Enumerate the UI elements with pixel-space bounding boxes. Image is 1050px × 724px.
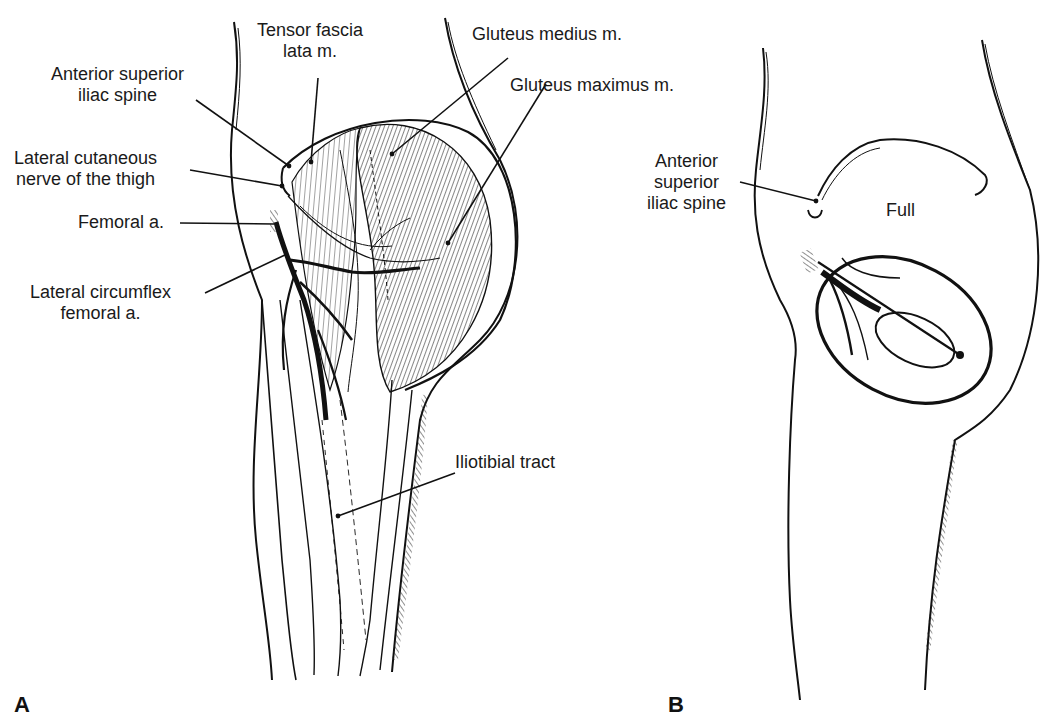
label-gluteus-maximus: Gluteus maximus m.	[510, 75, 674, 96]
panel-b-drawing	[740, 40, 1038, 700]
label-line: Lateral cutaneous	[14, 148, 157, 169]
anatomy-illustration	[0, 0, 1050, 724]
label-iliotibial-tract: Iliotibial tract	[455, 452, 555, 473]
label-line: lata m.	[257, 41, 363, 62]
panel-a-drawing	[180, 18, 546, 680]
label-anterior-superior-iliac-spine-a: Anterior superior iliac spine	[51, 64, 184, 106]
label-line: Lateral circumflex	[30, 282, 171, 303]
label-line: Gluteus maximus m.	[510, 75, 674, 96]
label-line: Iliotibial tract	[455, 452, 555, 473]
label-full: Full	[886, 200, 915, 221]
label-line: iliac spine	[647, 193, 726, 214]
label-tensor-fascia-lata: Tensor fascia lata m.	[257, 20, 363, 62]
label-line: Gluteus medius m.	[472, 24, 622, 45]
label-line: Tensor fascia	[257, 20, 363, 41]
label-line: Femoral a.	[78, 212, 164, 233]
label-lateral-cutaneous-nerve: Lateral cutaneous nerve of the thigh	[14, 148, 157, 190]
panel-letter-b: B	[668, 692, 684, 718]
label-line: superior	[647, 172, 726, 193]
label-line: Full	[886, 200, 915, 221]
label-femoral-artery: Femoral a.	[78, 212, 164, 233]
label-anterior-superior-iliac-spine-b: Anterior superior iliac spine	[647, 151, 726, 214]
label-gluteus-medius: Gluteus medius m.	[472, 24, 622, 45]
label-line: nerve of the thigh	[14, 169, 157, 190]
panel-letter-a: A	[14, 692, 30, 718]
anatomy-figure: Tensor fascia lata m. Anterior superior …	[0, 0, 1050, 724]
label-line: Anterior	[647, 151, 726, 172]
label-line: femoral a.	[30, 303, 171, 324]
label-line: iliac spine	[51, 85, 184, 106]
label-line: Anterior superior	[51, 64, 184, 85]
label-lateral-circumflex-femoral-artery: Lateral circumflex femoral a.	[30, 282, 171, 324]
